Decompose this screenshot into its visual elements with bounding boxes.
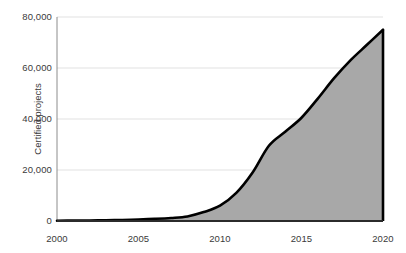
plot-area [0, 0, 406, 253]
x-tick-label: 2010 [198, 234, 242, 244]
x-tick-label: 2020 [361, 234, 405, 244]
x-tick-label: 2000 [35, 234, 79, 244]
x-tick-label: 2005 [117, 234, 161, 244]
x-tick-label: 2015 [280, 234, 324, 244]
series-area-fill [57, 30, 383, 221]
area-chart: Certified projects 80,00060,00040,00020,… [0, 0, 406, 253]
